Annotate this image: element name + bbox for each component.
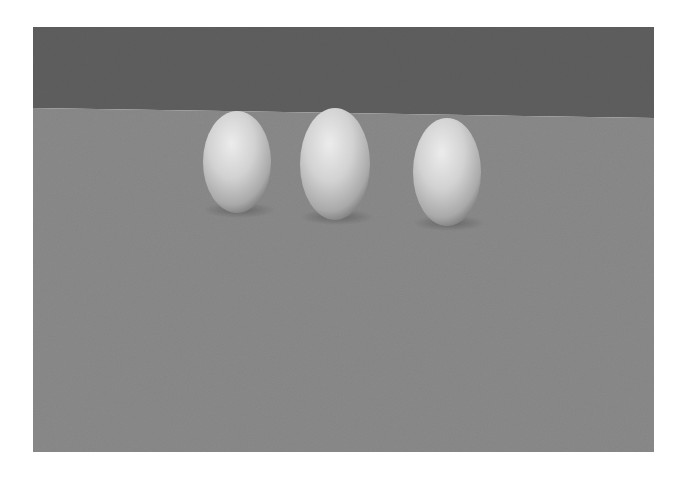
wall <box>33 27 654 118</box>
rendered-scene <box>33 27 654 452</box>
scene-canvas <box>33 27 654 452</box>
